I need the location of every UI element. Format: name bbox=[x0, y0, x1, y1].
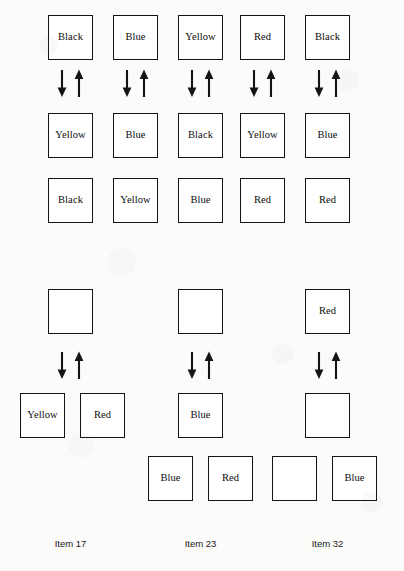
color-box-label: Blue bbox=[190, 410, 210, 421]
color-box-red: Red bbox=[305, 289, 350, 334]
color-box-red: Red bbox=[80, 393, 125, 438]
color-box-red: Red bbox=[240, 15, 285, 60]
arrow-down-up-icon bbox=[184, 350, 218, 380]
color-box-label: Red bbox=[222, 473, 239, 484]
color-box-yellow: Yellow bbox=[178, 15, 223, 60]
color-box-label: Black bbox=[315, 32, 340, 43]
color-box-red: Red bbox=[240, 178, 285, 223]
color-box-yellow: Yellow bbox=[240, 113, 285, 158]
color-box-label: Yellow bbox=[120, 195, 150, 206]
color-box-black: Black bbox=[305, 15, 350, 60]
color-box-yellow: Yellow bbox=[48, 113, 93, 158]
color-box-yellow: Yellow bbox=[113, 178, 158, 223]
item-label: Item 17 bbox=[34, 538, 107, 549]
color-box-blue: Blue bbox=[148, 456, 193, 501]
color-box-label: Blue bbox=[125, 130, 145, 141]
figure-page: BlackBlueYellowRedBlackYellowBlueBlackYe… bbox=[0, 0, 404, 571]
arrow-down-up-icon bbox=[311, 350, 345, 380]
color-box-yellow: Yellow bbox=[20, 393, 65, 438]
color-box-empty bbox=[272, 456, 317, 501]
item-label: Item 23 bbox=[164, 538, 237, 549]
color-box-label: Blue bbox=[190, 195, 210, 206]
arrow-down-up-icon bbox=[119, 68, 153, 98]
color-box-label: Red bbox=[254, 32, 271, 43]
arrow-down-up-icon bbox=[184, 68, 218, 98]
color-box-label: Blue bbox=[317, 130, 337, 141]
color-box-empty bbox=[305, 393, 350, 438]
color-box-label: Red bbox=[94, 410, 111, 421]
color-box-empty bbox=[178, 289, 223, 334]
color-box-blue: Blue bbox=[332, 456, 377, 501]
color-box-label: Yellow bbox=[247, 130, 277, 141]
color-box-label: Red bbox=[254, 195, 271, 206]
color-box-black: Black bbox=[48, 178, 93, 223]
color-box-red: Red bbox=[208, 456, 253, 501]
color-box-blue: Blue bbox=[178, 178, 223, 223]
arrow-down-up-icon bbox=[54, 68, 88, 98]
color-box-red: Red bbox=[305, 178, 350, 223]
color-box-label: Blue bbox=[125, 32, 145, 43]
color-box-label: Yellow bbox=[55, 130, 85, 141]
arrow-down-up-icon bbox=[54, 350, 88, 380]
color-box-label: Blue bbox=[344, 473, 364, 484]
color-box-label: Red bbox=[319, 195, 336, 206]
color-box-label: Red bbox=[319, 306, 336, 317]
color-box-label: Black bbox=[58, 195, 83, 206]
arrow-down-up-icon bbox=[246, 68, 280, 98]
arrow-down-up-icon bbox=[311, 68, 345, 98]
color-box-label: Black bbox=[188, 130, 213, 141]
color-box-blue: Blue bbox=[113, 15, 158, 60]
color-box-label: Yellow bbox=[185, 32, 215, 43]
color-box-label: Blue bbox=[160, 473, 180, 484]
color-box-blue: Blue bbox=[305, 113, 350, 158]
color-box-label: Yellow bbox=[27, 410, 57, 421]
color-box-label: Black bbox=[58, 32, 83, 43]
color-box-black: Black bbox=[178, 113, 223, 158]
color-box-empty bbox=[48, 289, 93, 334]
color-box-blue: Blue bbox=[178, 393, 223, 438]
item-label: Item 32 bbox=[291, 538, 364, 549]
color-box-black: Black bbox=[48, 15, 93, 60]
color-box-blue: Blue bbox=[113, 113, 158, 158]
